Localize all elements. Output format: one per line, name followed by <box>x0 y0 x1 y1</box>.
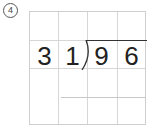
division-overline <box>86 40 147 41</box>
dividend-digit: 9 <box>87 42 116 70</box>
division-bracket-icon <box>80 40 90 70</box>
problem-number-label: 4 <box>8 5 13 15</box>
dividend-digit: 6 <box>117 42 146 70</box>
division-grid: 3 1 9 6 <box>29 11 146 125</box>
problem-number-badge: 4 <box>3 3 18 18</box>
grid-row-line <box>61 97 145 98</box>
divisor-digit: 3 <box>30 42 59 70</box>
